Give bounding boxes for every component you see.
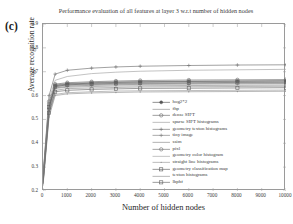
chart-legend: hog2*2fhpdense SIFTsparse SIFT histogram… xyxy=(152,99,228,186)
legend-marker-icon xyxy=(152,139,171,146)
x-tick-label: 0 xyxy=(41,192,44,198)
legend-marker-icon xyxy=(152,99,171,106)
legend-item[interactable]: tiny image xyxy=(152,132,228,139)
legend-marker-icon xyxy=(152,132,171,139)
legend-item[interactable]: lbphf xyxy=(152,179,228,186)
legend-item[interactable]: straight line histograms xyxy=(152,159,228,166)
legend-marker-icon xyxy=(152,106,171,113)
legend-label: sparse SIFT histograms xyxy=(173,120,219,125)
chart-title: Performance evaluation of all features a… xyxy=(22,8,290,15)
legend-label: texton histograms xyxy=(173,173,208,178)
y-axis-label: Average recognition rate xyxy=(27,0,36,130)
legend-item[interactable]: hog2*2 xyxy=(152,99,228,106)
legend-item[interactable]: ssim xyxy=(152,139,228,146)
legend-marker-icon xyxy=(152,146,171,153)
x-tick-label: 7000 xyxy=(207,192,217,198)
legend-label: hog2*2 xyxy=(173,100,188,105)
legend-marker-icon xyxy=(152,126,171,133)
x-tick-label: 2000 xyxy=(85,192,95,198)
legend-label: lbphf xyxy=(173,180,183,185)
legend-label: geometry classification map xyxy=(173,167,228,172)
legend-label: dense SIFT xyxy=(173,113,195,118)
legend-label: fhp xyxy=(173,107,180,112)
legend-marker-icon xyxy=(152,112,171,119)
legend-marker-icon xyxy=(152,119,171,126)
legend-label: geometry color histogram xyxy=(173,153,224,158)
legend-label: straight line histograms xyxy=(173,160,219,165)
legend-label: ssim xyxy=(173,140,182,145)
legend-item[interactable]: sparse SIFT histograms xyxy=(152,119,228,126)
x-tick-label: 1000 xyxy=(61,192,71,198)
legend-label: tiny image xyxy=(173,133,194,138)
legend-marker-icon xyxy=(152,179,171,186)
legend-marker-icon xyxy=(152,159,171,166)
x-tick-label: 8000 xyxy=(231,192,241,198)
x-tick-label: 10000 xyxy=(279,192,292,198)
figure-container: Performance evaluation of all features a… xyxy=(0,0,293,224)
legend-marker-icon xyxy=(152,173,171,180)
legend-label: geometry texton histograms xyxy=(173,127,228,132)
y-tick-label: 0.3 xyxy=(0,163,38,169)
legend-label: pixl xyxy=(173,147,181,152)
x-tick-label: 5000 xyxy=(158,192,168,198)
x-tick-label: 3000 xyxy=(110,192,120,198)
legend-marker-icon xyxy=(152,153,171,160)
y-tick-label: 0.2 xyxy=(0,187,38,193)
y-tick-label: 0.4 xyxy=(0,139,38,145)
x-tick-label: 9000 xyxy=(256,192,266,198)
x-axis-label: Number of hidden nodes xyxy=(42,203,285,212)
legend-marker-icon xyxy=(152,166,171,173)
x-tick-label: 4000 xyxy=(134,192,144,198)
legend-item[interactable]: texton histograms xyxy=(152,173,228,180)
x-tick-label: 6000 xyxy=(183,192,193,198)
